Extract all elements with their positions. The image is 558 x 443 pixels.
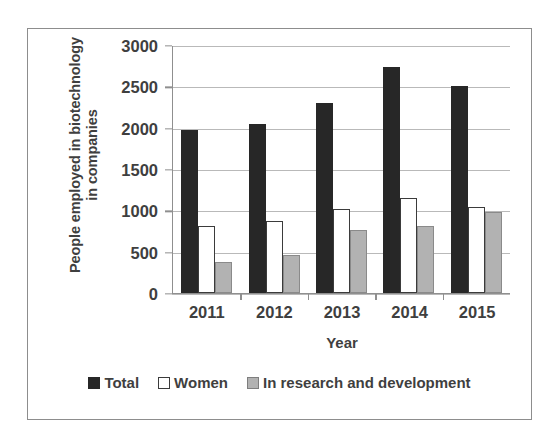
bar [283,255,300,293]
bar [249,124,266,293]
y-tick-mark [165,169,172,170]
bar [400,198,417,293]
legend-label: Total [104,374,139,391]
legend-item[interactable]: In research and development [247,374,471,391]
bar [485,212,502,294]
bar [266,221,283,293]
x-tick-label: 2015 [443,303,511,322]
x-tick-label: 2011 [173,303,241,322]
x-tick-mark [375,293,376,300]
x-axis-title: Year [173,334,511,351]
y-axis-title-line-1: People employed in biotechnology [67,37,84,273]
bar-groups [173,46,510,293]
bar [181,130,198,293]
bar [468,207,485,293]
y-tick-label: 3000 [78,37,158,56]
y-tick-label: 0 [78,285,158,304]
x-tick-label: 2013 [308,303,376,322]
legend-label: In research and development [263,374,471,391]
chart-legend: TotalWomenIn research and development [28,374,531,391]
y-tick-mark [165,211,172,212]
legend-item[interactable]: Women [158,374,228,391]
legend-item[interactable]: Total [88,374,139,391]
plot-inner: 050010001500200025003000 [172,46,510,294]
bar-group [443,46,510,293]
gridline [172,294,510,295]
bar [215,262,232,293]
bar [316,103,333,293]
x-tick-mark [308,293,309,300]
chart-figure-frame: People employed in biotechnology in comp… [27,28,532,420]
bar [198,226,215,294]
bar [350,230,367,293]
y-tick-label: 1000 [78,202,158,221]
x-tick-mark [240,293,241,300]
bar-group [308,46,375,293]
y-tick-mark [165,293,172,294]
bar [451,86,468,293]
bar [383,67,400,293]
y-tick-mark [165,128,172,129]
y-tick-mark [165,45,172,46]
legend-swatch-icon [158,377,170,389]
x-axis-tick-labels: 20112012201320142015 [173,303,511,322]
x-tick-mark [443,293,444,300]
legend-label: Women [174,374,228,391]
bar-group [375,46,442,293]
y-tick-label: 2000 [78,119,158,138]
y-tick-label: 2500 [78,78,158,97]
bar-group [240,46,307,293]
y-tick-label: 1500 [78,161,158,180]
y-tick-mark [165,87,172,88]
bar [417,226,434,293]
x-tick-label: 2012 [241,303,309,322]
bar [333,209,350,293]
y-tick-label: 500 [78,243,158,262]
plot-area: 050010001500200025003000 [172,46,510,294]
bar-group [173,46,240,293]
y-tick-mark [165,252,172,253]
legend-swatch-icon [247,377,259,389]
x-tick-label: 2014 [376,303,444,322]
legend-swatch-icon [88,377,100,389]
